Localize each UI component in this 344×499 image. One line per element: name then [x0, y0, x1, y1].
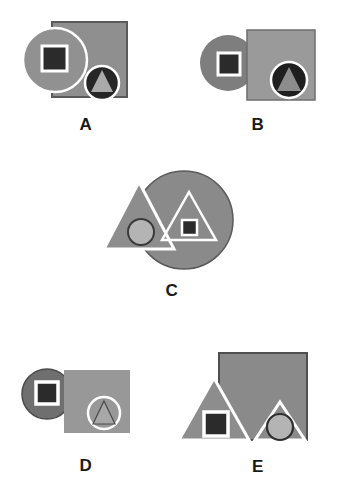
panel-c: C [86, 160, 258, 280]
panel-b-figure [172, 8, 344, 113]
panel-d-label: D [0, 457, 172, 474]
panel-c-inner-circle [128, 219, 154, 245]
panel-c-label: C [86, 282, 258, 299]
panel-c-figure [86, 160, 258, 280]
panel-e-figure [172, 340, 344, 455]
panel-a: A [0, 8, 172, 113]
panel-e-inner-circle [267, 414, 293, 440]
panel-c-inner-square [182, 220, 197, 235]
panel-e-label: E [172, 458, 344, 475]
panel-a-inner-square [42, 46, 67, 71]
panel-a-figure [0, 8, 172, 113]
panel-d: D [0, 345, 172, 455]
panel-e: E [172, 340, 344, 455]
panel-a-label: A [0, 116, 172, 133]
panel-b-inner-square [218, 53, 240, 75]
panel-b-label: B [172, 116, 344, 133]
panel-d-inner-square [36, 382, 58, 404]
panel-d-figure [0, 345, 172, 455]
panel-b: B [172, 8, 344, 113]
panel-e-inner-square [204, 412, 228, 436]
